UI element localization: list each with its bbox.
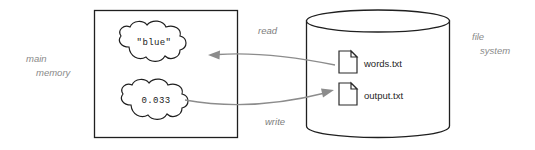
file-system-label: file system xyxy=(472,31,510,56)
file-system-label-line2: system xyxy=(480,45,510,56)
read-arrow-label: read xyxy=(258,25,278,36)
cylinder-body xyxy=(307,21,450,138)
file-label-output[interactable]: output.txt xyxy=(364,90,403,101)
main-memory-label-line1: main xyxy=(26,53,47,64)
memory-value-float: 0.033 xyxy=(141,96,170,106)
main-memory-label-line2: memory xyxy=(36,67,72,78)
cylinder-top xyxy=(307,10,450,32)
memory-value-string: "blue" xyxy=(137,38,172,48)
write-arrow-label: write xyxy=(265,116,285,127)
main-memory-label: main memory xyxy=(26,53,72,78)
file-system-label-line1: file xyxy=(472,31,484,42)
diagram-canvas: main memory file system "blue" 0.033 xyxy=(0,0,535,150)
file-system-cylinder xyxy=(307,10,450,138)
file-label-words[interactable]: words.txt xyxy=(363,58,402,69)
